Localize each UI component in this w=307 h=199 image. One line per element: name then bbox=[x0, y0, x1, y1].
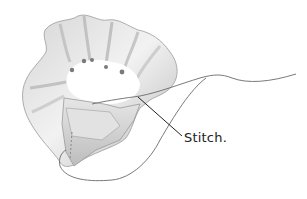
illustration-canvas: Stitch. bbox=[0, 0, 307, 199]
stitch-callout-label: Stitch. bbox=[184, 130, 227, 145]
ribbon-rosette-illustration bbox=[0, 0, 307, 199]
callout-leader-line bbox=[138, 97, 182, 136]
